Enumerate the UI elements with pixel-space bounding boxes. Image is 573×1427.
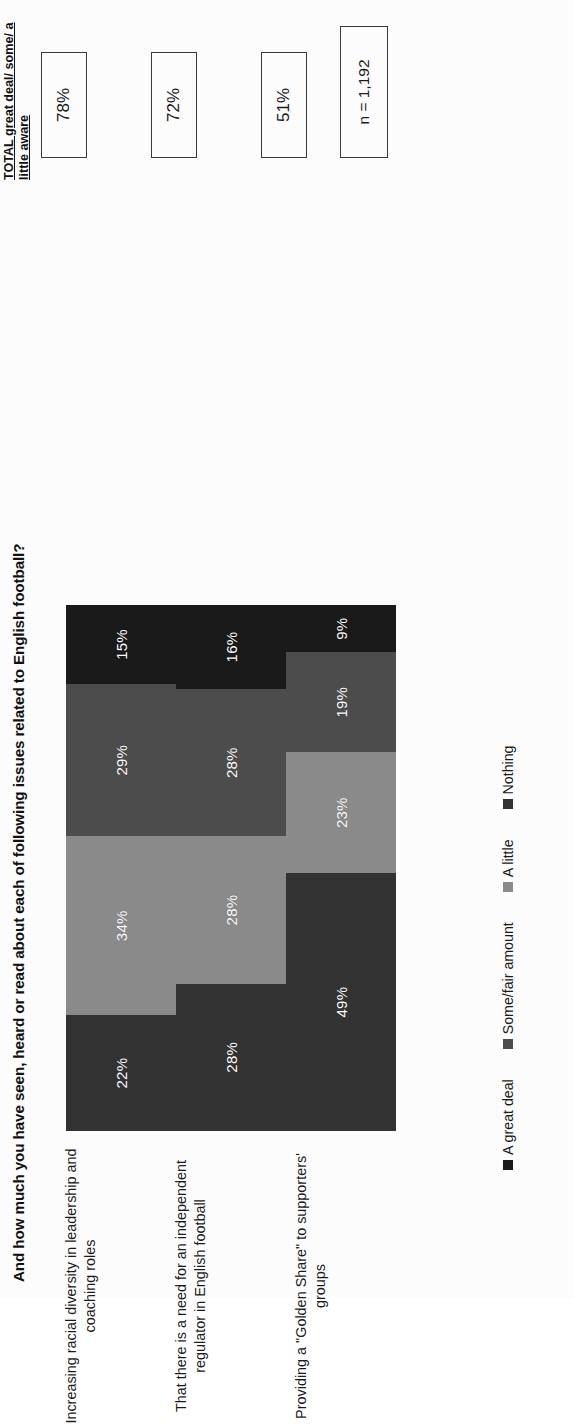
segment-value-2-2: 23% (333, 797, 350, 828)
total-box-2: 51% (261, 52, 307, 158)
legend-item-1[interactable]: Some/fair amount (500, 922, 516, 1049)
segment-value-1-3: 28% (223, 1042, 240, 1073)
stacked-bar-2[interactable]: 9% 19% 23% 49% (286, 605, 396, 1131)
segment-value-0-2: 34% (113, 911, 130, 942)
plot-area: 15% 29% 34% 22% 16% 28% 28% 28% 9% 19% 2… (58, 605, 441, 1131)
total-box-1: 72% (151, 52, 197, 158)
legend-item-3[interactable]: Nothing (500, 746, 516, 810)
bar-segment-0-3[interactable]: 22% (66, 1015, 176, 1131)
segment-value-2-3: 49% (333, 987, 350, 1018)
segment-value-1-1: 28% (223, 747, 240, 778)
total-column-header: TOTAL great deal/ some/ a little aware (2, 4, 32, 180)
total-value-0: 78% (54, 88, 74, 122)
segment-value-2-0: 9% (333, 618, 350, 640)
page-title: And how much you have seen, heard or rea… (10, 202, 27, 1282)
segment-value-1-2: 28% (223, 895, 240, 926)
category-label-0: Increasing racial diversity in leadershi… (62, 1136, 100, 1427)
segment-value-0-3: 22% (113, 1058, 130, 1089)
legend-label-1: Some/fair amount (500, 922, 516, 1034)
segment-value-1-0: 16% (223, 632, 240, 663)
bar-segment-2-0[interactable]: 9% (286, 605, 396, 652)
bar-segment-1-1[interactable]: 28% (176, 689, 286, 836)
bar-segment-2-3[interactable]: 49% (286, 873, 396, 1131)
legend-label-0: A great deal (500, 1079, 516, 1155)
total-value-2: 51% (274, 88, 294, 122)
legend-swatch-icon-3 (503, 799, 513, 809)
legend-swatch-icon-1 (503, 1039, 513, 1049)
bar-segment-1-0[interactable]: 16% (176, 605, 286, 689)
chart-legend: A great deal Some/fair amount A little N… (500, 746, 516, 1170)
segment-value-0-0: 15% (113, 629, 130, 660)
bar-segment-0-0[interactable]: 15% (66, 605, 176, 684)
category-label-1: That there is a need for an independent … (172, 1136, 210, 1427)
bar-segment-1-3[interactable]: 28% (176, 984, 286, 1131)
legend-item-0[interactable]: A great deal (500, 1079, 516, 1170)
sample-size-label: n = 1,192 (355, 59, 373, 124)
total-box-0: 78% (41, 52, 87, 158)
legend-label-2: A little (500, 839, 516, 877)
legend-label-3: Nothing (500, 746, 516, 795)
legend-item-2[interactable]: A little (500, 839, 516, 892)
bar-segment-2-1[interactable]: 19% (286, 652, 396, 752)
sample-size-box: n = 1,192 (340, 26, 388, 158)
category-label-2: Providing a "Golden Share" to supporters… (292, 1136, 330, 1427)
stacked-bar-0[interactable]: 15% 29% 34% 22% (66, 605, 176, 1131)
bar-segment-0-2[interactable]: 34% (66, 836, 176, 1015)
bar-segment-1-2[interactable]: 28% (176, 836, 286, 983)
legend-swatch-icon-2 (503, 882, 513, 892)
legend-swatch-icon-0 (503, 1160, 513, 1170)
segment-value-2-1: 19% (333, 687, 350, 718)
stacked-bar-1[interactable]: 16% 28% 28% 28% (176, 605, 286, 1131)
segment-value-0-1: 29% (113, 745, 130, 776)
total-value-1: 72% (164, 88, 184, 122)
bar-segment-2-2[interactable]: 23% (286, 752, 396, 873)
bar-segment-0-1[interactable]: 29% (66, 684, 176, 837)
